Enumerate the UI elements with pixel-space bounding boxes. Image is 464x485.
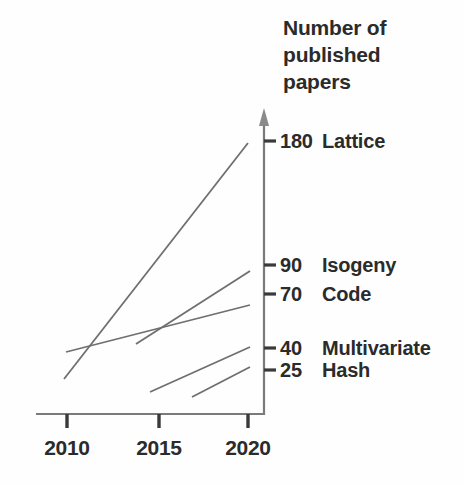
series-line-isogeny [136,271,250,344]
series-name-code: Code [322,283,371,306]
y-value-25: 25 [280,359,322,382]
y-value-180: 180 [280,130,322,153]
y-value-90: 90 [280,254,322,277]
series-name-isogeny: Isogeny [322,254,396,277]
x-label-2020: 2020 [208,436,288,460]
series-line-multivariate [150,347,250,392]
y-axis-title-line-2: published [283,41,458,68]
x-label-2015: 2015 [119,436,199,460]
y-axis-title-line-3: papers [283,68,458,95]
x-label-2010: 2010 [27,436,107,460]
y-axis-arrow-icon [259,108,269,126]
y-value-70: 70 [280,283,322,306]
series-line-code [66,305,250,352]
chart-page: Number of published papers 180Lattice 90… [0,0,464,485]
y-label-isogeny: 90Isogeny [280,254,396,277]
series-name-hash: Hash [322,359,370,382]
y-label-code: 70Code [280,283,371,306]
series-line-hash [192,367,250,397]
series-name-multivariate: Multivariate [322,337,431,360]
y-value-40: 40 [280,337,322,360]
y-label-lattice: 180Lattice [280,130,385,153]
y-axis-title: Number of published papers [283,14,458,95]
series-name-lattice: Lattice [322,130,385,153]
y-label-hash: 25Hash [280,359,370,382]
y-label-multivariate: 40Multivariate [280,337,431,360]
y-axis-title-line-1: Number of [283,14,458,41]
series-line-lattice [64,143,248,379]
